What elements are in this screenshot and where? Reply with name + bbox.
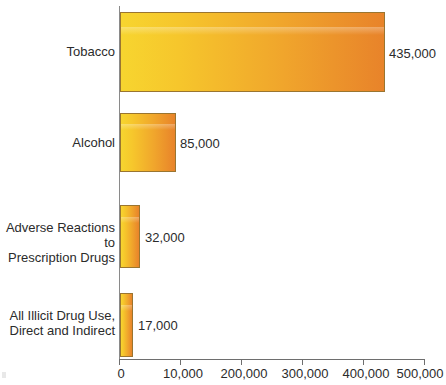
bar-chart: Tobacco 435,000 Alcohol 85,000 Adverse R… (0, 0, 446, 385)
bar-tobacco[interactable] (120, 12, 385, 92)
x-axis-tick-label: 500,000 (397, 367, 444, 381)
category-label-alcohol: Alcohol (72, 135, 115, 150)
category-label-illicit-drug-use: All Illicit Drug Use, Direct and Indirec… (10, 308, 116, 338)
x-axis-tick (302, 360, 303, 365)
bar-all-illicit-drug-use[interactable] (120, 293, 133, 357)
value-label-tobacco: 435,000 (389, 47, 436, 60)
x-axis-line (119, 359, 425, 360)
plot-area: Tobacco 435,000 Alcohol 85,000 Adverse R… (0, 0, 446, 385)
x-axis-tick-label: 10,000 (163, 367, 203, 381)
x-axis-tick (180, 360, 181, 365)
value-label-alcohol: 85,000 (180, 137, 220, 150)
bar-sheen (121, 217, 139, 223)
value-label-illicit-drug-use: 17,000 (138, 319, 178, 332)
bar-alcohol[interactable] (120, 113, 176, 172)
x-axis-tick-label: 300,000 (282, 367, 329, 381)
bar-sheen (121, 124, 175, 130)
category-label-tobacco: Tobacco (67, 44, 115, 59)
x-axis-tick (424, 360, 425, 365)
x-axis-tick-label: 0 (117, 367, 124, 381)
corner-artifact (2, 372, 6, 378)
bar-sheen (121, 27, 384, 35)
x-axis-tick (119, 360, 120, 365)
x-axis-tick (363, 360, 364, 365)
bar-row: Adverse Reactions to Prescription Drugs … (0, 205, 446, 268)
bar-sheen (121, 305, 132, 311)
x-axis-tick (241, 360, 242, 365)
x-axis-tick-label: 400,000 (343, 367, 390, 381)
bar-row: All Illicit Drug Use, Direct and Indirec… (0, 293, 446, 357)
bar-row: Alcohol 85,000 (0, 113, 446, 172)
bar-row: Tobacco 435,000 (0, 12, 446, 92)
bar-adverse-reactions-prescription-drugs[interactable] (120, 205, 140, 268)
x-axis-tick-label: 200,000 (221, 367, 268, 381)
value-label-adverse-reactions: 32,000 (145, 231, 185, 244)
category-label-adverse-reactions: Adverse Reactions to Prescription Drugs (0, 220, 115, 265)
